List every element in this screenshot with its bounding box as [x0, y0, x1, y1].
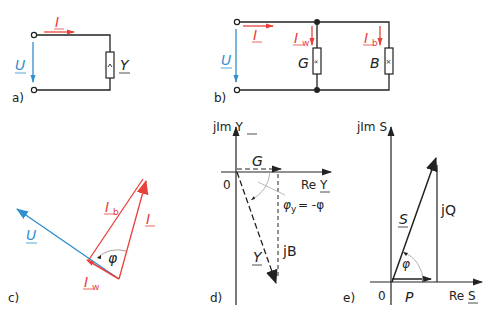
- terminal-top: [31, 32, 36, 37]
- label-current-c: I: [146, 211, 150, 227]
- label-jb-d: jB: [282, 243, 297, 259]
- label-iw: I: [294, 30, 298, 46]
- label-angle-e: φ: [402, 257, 410, 271]
- label-p-e: P: [405, 289, 414, 305]
- panel-label-d: d): [210, 291, 222, 305]
- label-angle-d: φ: [283, 198, 291, 212]
- panel-label-e: e): [343, 291, 355, 305]
- origin-e: 0: [378, 289, 386, 303]
- label-y-d: Y: [253, 249, 263, 265]
- label-current-a: I: [55, 14, 59, 30]
- label-voltage-c: U: [26, 227, 36, 243]
- label-ib-c: I: [105, 199, 109, 215]
- label-angle-rhs-d: = -φ: [298, 198, 324, 212]
- panel-e-power-diagram: [370, 127, 482, 305]
- panel-label-c: c): [8, 291, 19, 305]
- label-jq-e: jQ: [440, 202, 456, 218]
- label-voltage-a: U: [15, 57, 25, 73]
- label-admittance-a: Y: [120, 57, 130, 73]
- panel-c-phasor: [17, 179, 146, 279]
- label-ib-c-sub: b: [113, 207, 119, 217]
- diagram-canvas: I U Y a) ∝ × I U I w I b G B b) U: [0, 0, 489, 314]
- svg-text:×: ×: [386, 58, 392, 66]
- axis-real-label-d: Re Y: [301, 178, 328, 192]
- admittance-element: [106, 52, 114, 78]
- label-current-b: I: [253, 27, 257, 43]
- label-iw-c: I: [84, 274, 88, 290]
- origin-d: 0: [223, 178, 231, 192]
- label-angle-c: φ: [108, 250, 118, 266]
- axis-real-label-e: Re S: [449, 289, 476, 303]
- panel-d-admittance-diagram: [221, 127, 331, 305]
- axis-imag-label-e: jIm S: [356, 120, 387, 134]
- label-iw-sub: w: [302, 38, 309, 48]
- label-b: B: [370, 55, 380, 71]
- panel-a-circuit: [31, 32, 114, 93]
- label-ib: I: [364, 30, 368, 46]
- label-ib-sub: b: [372, 38, 378, 48]
- label-iw-c-sub: w: [92, 282, 99, 292]
- y-phasor: [237, 172, 276, 283]
- terminal-bottom: [31, 87, 36, 92]
- label-g-d: G: [252, 153, 263, 169]
- label-s-e: S: [399, 211, 408, 227]
- svg-text:∝: ∝: [314, 58, 319, 66]
- label-g: G: [298, 55, 309, 71]
- panel-label-a: a): [12, 91, 24, 105]
- panel-label-b: b): [214, 91, 226, 105]
- label-voltage-b: U: [221, 52, 231, 68]
- axis-imag-label-d: jIm Y: [212, 120, 243, 134]
- label-angle-d-sub: y: [291, 204, 297, 214]
